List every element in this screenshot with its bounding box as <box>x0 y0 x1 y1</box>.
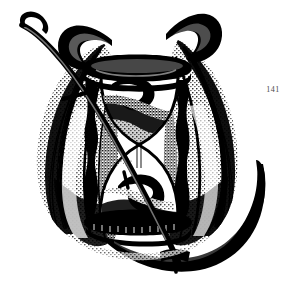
folio-page-number: 141 <box>262 84 284 96</box>
winged-hourglass-illustration: Winged hourglass with scythe <box>0 0 293 291</box>
page-canvas: Winged hourglass with scythe <box>0 0 293 291</box>
top-plate-highlight <box>91 59 183 73</box>
winged-hourglass-svg: Winged hourglass with scythe <box>0 0 293 291</box>
hourglass-top-plate <box>82 55 192 92</box>
